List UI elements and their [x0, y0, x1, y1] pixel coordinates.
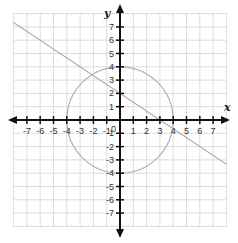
axes [8, 4, 230, 238]
x-tick-label: 6 [197, 126, 202, 136]
x-tick-label: 7 [211, 126, 216, 136]
x-axis-left-arrow-icon [8, 116, 17, 124]
y-tick-label: -5 [106, 182, 114, 192]
x-tick-label: 1 [131, 126, 136, 136]
coordinate-plane: -7-6-5-4-3-2-11234567-7-6-5-4-3-2-112345… [0, 0, 238, 243]
x-tick-label: -7 [23, 126, 31, 136]
y-tick-label: 4 [109, 62, 114, 72]
y-axis-down-arrow-icon [116, 229, 124, 238]
x-tick-label: -2 [89, 126, 97, 136]
x-axis-right-arrow-icon [221, 116, 230, 124]
y-tick-label: -6 [106, 195, 114, 205]
x-axis-title: x [223, 101, 231, 114]
y-tick-label: 6 [109, 35, 114, 45]
y-tick-label: -7 [106, 208, 114, 218]
x-tick-label: -4 [63, 126, 71, 136]
origin-label: 0 [111, 124, 116, 134]
y-tick-label: 3 [109, 75, 114, 85]
y-tick-label: -3 [106, 155, 114, 165]
x-tick-label: -5 [49, 126, 57, 136]
x-tick-label: 5 [184, 126, 189, 136]
y-tick-label: 5 [109, 49, 114, 59]
y-tick-label: 7 [109, 22, 114, 32]
y-axis-up-arrow-icon [116, 4, 124, 13]
y-tick-label: 2 [109, 88, 114, 98]
y-tick-label: -2 [106, 142, 114, 152]
x-tick-label: -3 [76, 126, 84, 136]
y-tick-label: -4 [106, 168, 114, 178]
y-tick-label: 1 [109, 102, 114, 112]
x-tick-label: 4 [171, 126, 176, 136]
x-tick-label: -6 [36, 126, 44, 136]
x-tick-label: 2 [144, 126, 149, 136]
x-tick-label: 3 [157, 126, 162, 136]
